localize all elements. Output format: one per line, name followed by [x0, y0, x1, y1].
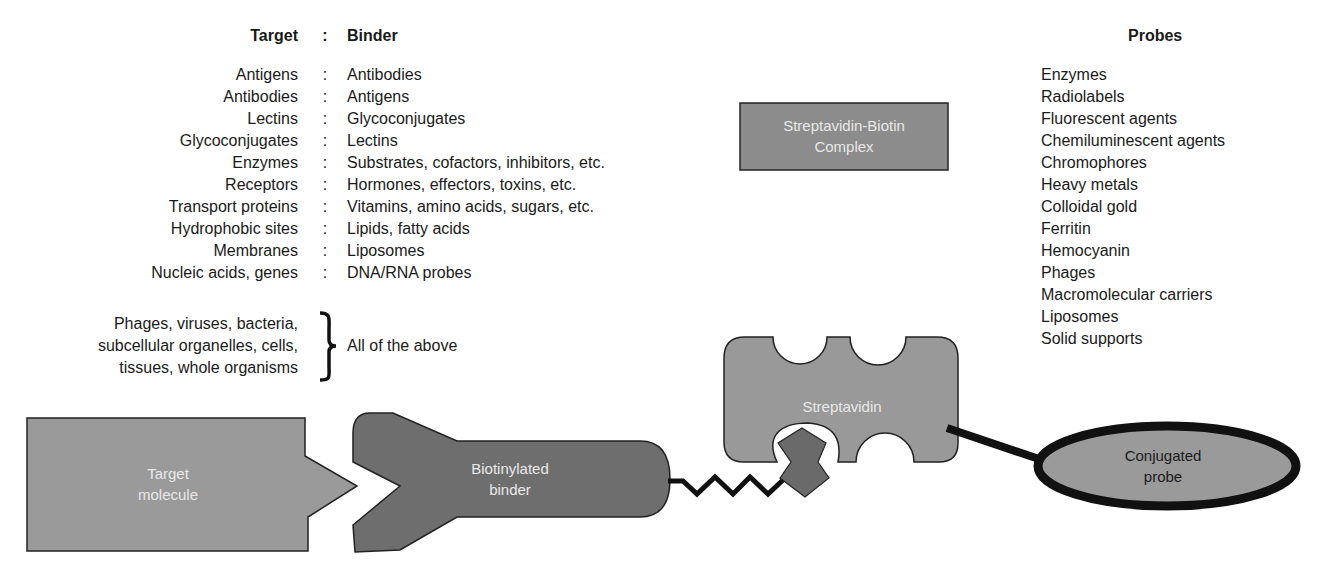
binder-label-2: binder: [489, 481, 531, 498]
streptavidin-label: Streptavidin: [802, 398, 881, 415]
curly-brace-icon: [320, 313, 336, 380]
complex-box-label-1: Streptavidin-Biotin: [783, 117, 905, 134]
probe-label-2: probe: [1144, 468, 1182, 485]
biotinylated-binder-shape: Biotinylated binder: [353, 413, 670, 552]
binder-label-1: Biotinylated: [471, 460, 549, 477]
streptavidin-shape: Streptavidin: [724, 337, 958, 462]
target-molecule-shape: Target molecule: [27, 418, 357, 551]
probe-connector: [947, 428, 1042, 460]
biotin-shape: [778, 428, 829, 497]
linker-zigzag: [668, 477, 783, 494]
target-molecule-label-2: molecule: [138, 486, 198, 503]
conjugated-probe-shape: Conjugated probe: [1038, 426, 1296, 506]
target-molecule-label-1: Target: [147, 465, 190, 482]
complex-box-label-2: Complex: [814, 138, 874, 155]
complex-box: Streptavidin-Biotin Complex: [740, 103, 948, 170]
probe-label-1: Conjugated: [1125, 447, 1202, 464]
binding-diagram: Streptavidin-Biotin Complex Target molec…: [0, 0, 1323, 565]
